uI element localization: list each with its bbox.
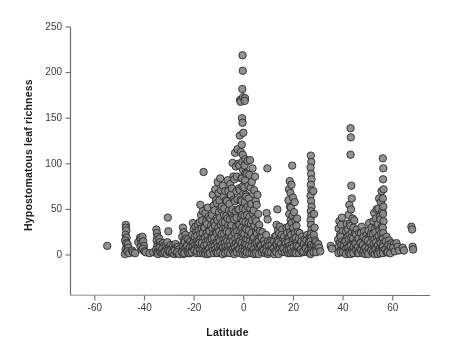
scatter-plot-figure: Hypostomatous leaf richness Latitude (0, 0, 455, 352)
scatter-plot-canvas (0, 0, 455, 352)
y-axis-title: Hypostomatous leaf richness (22, 79, 34, 231)
x-axis-title: Latitude (0, 326, 455, 338)
